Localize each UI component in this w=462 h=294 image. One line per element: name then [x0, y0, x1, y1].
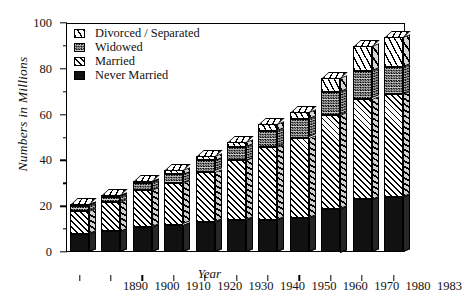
- bar-segment-divorced-separated: [290, 112, 309, 119]
- x-tick-label: 1983: [437, 279, 462, 294]
- bar-column: [384, 37, 403, 252]
- legend-label: Divorced / Separated: [95, 26, 200, 41]
- bar-segment-married: [164, 183, 183, 224]
- bar-column: [164, 170, 183, 252]
- x-tick-label: 1930: [249, 279, 274, 294]
- y-tick-mark-minor: [63, 183, 67, 184]
- bar-segment-married: [353, 99, 372, 200]
- bar-segment-never-married: [164, 225, 183, 252]
- y-tick-mark: [60, 205, 67, 206]
- bar-side-face-segment: [152, 224, 159, 252]
- y-tick-mark-minor: [63, 228, 67, 229]
- y-tick-label: 0: [46, 245, 52, 260]
- bar-side-face-segment: [246, 158, 253, 220]
- bar-side-face-segment: [152, 187, 159, 226]
- bar-segment-never-married: [133, 227, 152, 252]
- bar-column: [196, 156, 215, 252]
- y-tick-mark-minor: [63, 91, 67, 92]
- bar-segment-never-married: [196, 222, 215, 252]
- bar-segment-widowed: [353, 71, 372, 98]
- bar-segment-never-married: [258, 220, 277, 252]
- x-tick-label: 1950: [311, 279, 336, 294]
- bar-side-face-segment: [340, 89, 347, 115]
- x-tick-mark: [330, 275, 331, 281]
- bar-segment-widowed: [321, 92, 340, 115]
- y-tick-mark: [60, 68, 67, 69]
- legend-item: Divorced / Separated: [74, 27, 200, 40]
- bar-side-face-segment: [246, 144, 253, 161]
- bar-side-face-segment: [215, 169, 222, 222]
- bar-side-face-segment: [403, 91, 410, 197]
- x-tick-mark: [267, 275, 268, 281]
- legend-item: Widowed: [74, 41, 200, 54]
- legend-label: Married: [95, 54, 135, 69]
- bar-segment-married: [321, 115, 340, 209]
- bar-segment-married: [101, 202, 120, 232]
- x-tick-mark: [393, 275, 394, 281]
- y-tick-mark-minor: [63, 45, 67, 46]
- bar-column: [290, 112, 309, 252]
- bar-side-face-segment: [340, 206, 347, 252]
- bar-column: [101, 195, 120, 252]
- bar-side-face-segment: [89, 208, 96, 234]
- bar-segment-divorced-separated: [321, 78, 340, 92]
- y-tick-mark: [60, 114, 67, 115]
- bar-side-face-segment: [120, 199, 127, 232]
- legend-label: Never Married: [95, 68, 168, 83]
- x-tick-label: 1890: [123, 279, 148, 294]
- bar-column: [227, 142, 246, 252]
- bar-segment-widowed: [101, 197, 120, 202]
- bar-segment-never-married: [290, 218, 309, 252]
- bar-segment-divorced-separated: [384, 37, 403, 67]
- bar-side-face-segment: [340, 112, 347, 209]
- legend-item: Never Married: [74, 69, 200, 82]
- bar-column: [133, 181, 152, 252]
- x-tick-label: 1970: [374, 279, 399, 294]
- x-tick-label: 1900: [154, 279, 179, 294]
- legend-label: Widowed: [95, 40, 143, 55]
- bar-segment-widowed: [384, 67, 403, 94]
- bar-segment-married: [290, 138, 309, 218]
- bar-side-face-segment: [309, 116, 316, 137]
- bar-segment-widowed: [258, 131, 277, 147]
- bar-side-face-segment: [89, 231, 96, 252]
- bar-side-face-segment: [183, 222, 190, 252]
- legend: Divorced / SeparatedWidowedMarriedNever …: [74, 27, 200, 83]
- bar-segment-divorced-separated: [353, 46, 372, 71]
- y-tick-label: 20: [40, 199, 53, 214]
- bar-segment-never-married: [101, 231, 120, 252]
- bar-segment-widowed: [70, 206, 89, 211]
- bar-segment-widowed: [227, 147, 246, 161]
- bar-segment-married: [384, 94, 403, 197]
- bar-segment-married: [196, 172, 215, 222]
- bar-side-face-segment: [120, 229, 127, 252]
- y-tick-mark: [60, 251, 67, 252]
- x-tick-label: 1920: [217, 279, 242, 294]
- bar-side-face-segment: [215, 219, 222, 252]
- x-tick-mark: [79, 275, 80, 281]
- x-tick-mark: [236, 275, 237, 281]
- diagonal-hatch-swatch: [74, 57, 85, 66]
- bar-side-face-segment: [372, 197, 379, 252]
- solid-black-swatch: [74, 71, 85, 80]
- bar-segment-widowed: [164, 174, 183, 183]
- y-tick-label: 40: [40, 153, 53, 168]
- bar-segment-married: [227, 160, 246, 220]
- bar-side-face-segment: [372, 43, 379, 71]
- bar-side-face-segment: [372, 96, 379, 200]
- y-tick-mark: [60, 160, 67, 161]
- bar-side-face-segment: [372, 68, 379, 98]
- bar-segment-never-married: [70, 234, 89, 252]
- y-tick-label: 60: [40, 107, 53, 122]
- bar-side-face-segment: [246, 217, 253, 252]
- bar-side-face-segment: [403, 194, 410, 252]
- bar-side-face-segment: [309, 135, 316, 218]
- bar-segment-widowed: [133, 183, 152, 190]
- bar-side-face-segment: [403, 34, 410, 67]
- x-tick-label: 1910: [186, 279, 211, 294]
- bar-column: [258, 124, 277, 252]
- steep-hatch-swatch: [74, 29, 85, 38]
- x-tick-label: 1980: [406, 279, 431, 294]
- x-tick-mark: [299, 275, 300, 281]
